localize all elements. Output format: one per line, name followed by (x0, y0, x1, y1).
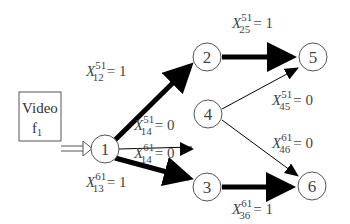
svg-text:2: 2 (203, 48, 212, 67)
label-x36: X6136= 1 (231, 197, 273, 221)
node-2: 2 (193, 43, 221, 71)
network-flow-diagram: Video f1 1 2 3 4 (0, 0, 350, 224)
label-x12: X5112= 1 (85, 59, 126, 83)
label-x13: X6113= 1 (85, 170, 126, 194)
node-6: 6 (298, 172, 326, 200)
node-5: 5 (299, 43, 327, 71)
input-arrow (61, 141, 92, 156)
video-label: Video (22, 100, 58, 116)
node-1: 1 (91, 135, 119, 163)
svg-text:4: 4 (204, 105, 213, 124)
svg-text:5: 5 (309, 48, 318, 67)
label-x45: X5145= 0 (271, 88, 313, 112)
svg-text:6: 6 (308, 177, 317, 196)
label-x14-51: X5114= 0 (133, 113, 174, 137)
label-x46: X6146= 0 (271, 131, 313, 155)
node-4: 4 (194, 100, 222, 128)
svg-text:3: 3 (203, 178, 212, 197)
video-source-box: Video f1 (19, 92, 61, 141)
label-x14-61: X6114= 0 (133, 141, 174, 165)
label-x25: X5125= 1 (231, 11, 273, 35)
node-3: 3 (193, 173, 221, 201)
svg-text:1: 1 (101, 140, 110, 159)
